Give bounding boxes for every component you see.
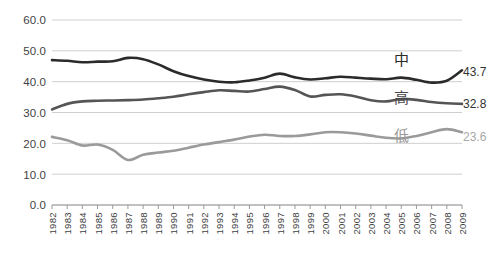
x-axis-tick-label: 1995 bbox=[244, 212, 255, 235]
x-axis-tick-label: 1994 bbox=[229, 212, 240, 235]
x-axis-tick-label: 2005 bbox=[396, 212, 407, 235]
end-value-gao: 32.8 bbox=[463, 97, 486, 111]
x-axis-tick-label: 1989 bbox=[153, 212, 164, 235]
x-axis-tick-label: 1996 bbox=[260, 212, 271, 235]
x-axis-tick-label: 1988 bbox=[138, 212, 149, 235]
x-axis-tick-label: 2009 bbox=[457, 212, 468, 235]
end-value-zhong: 43.7 bbox=[463, 65, 486, 79]
line-chart: 60.0 50.0 40.0 30.0 20.0 10.0 0.0 中 高 低 … bbox=[0, 0, 494, 254]
series-label-zhong: 中 bbox=[394, 48, 409, 69]
series-label-di: 低 bbox=[394, 124, 409, 145]
x-axis-tick-label: 2000 bbox=[320, 212, 331, 235]
x-axis-tick-label: 1999 bbox=[305, 212, 316, 235]
series-label-gao: 高 bbox=[394, 86, 409, 107]
x-axis-tick-label: 1992 bbox=[199, 212, 210, 235]
x-axis-tick-label: 2007 bbox=[427, 212, 438, 235]
x-axis-tick-label: 1998 bbox=[290, 212, 301, 235]
x-axis-tick-label: 1986 bbox=[108, 212, 119, 235]
x-axis-tick-label: 2008 bbox=[442, 212, 453, 235]
x-axis-tick-label: 1984 bbox=[77, 212, 88, 235]
x-axis-tick-label: 2004 bbox=[381, 212, 392, 235]
x-axis-tick-label: 2003 bbox=[366, 212, 377, 235]
x-axis-tick-label: 2001 bbox=[336, 212, 347, 235]
x-axis-tick-label: 1993 bbox=[214, 212, 225, 235]
x-axis-tick-label: 2006 bbox=[411, 212, 422, 235]
x-axis-tick-label: 1990 bbox=[168, 212, 179, 235]
x-axis-tick-label: 1982 bbox=[47, 212, 58, 235]
end-value-di: 23.6 bbox=[463, 130, 486, 144]
x-axis-tick-label: 1983 bbox=[62, 212, 73, 235]
x-axis-tick-label: 2002 bbox=[351, 212, 362, 235]
x-axis-tick-label: 1985 bbox=[93, 212, 104, 235]
x-axis-tick-label: 1997 bbox=[275, 212, 286, 235]
x-axis-tick-label: 1987 bbox=[123, 212, 134, 235]
x-axis-tick-label: 1991 bbox=[184, 212, 195, 235]
